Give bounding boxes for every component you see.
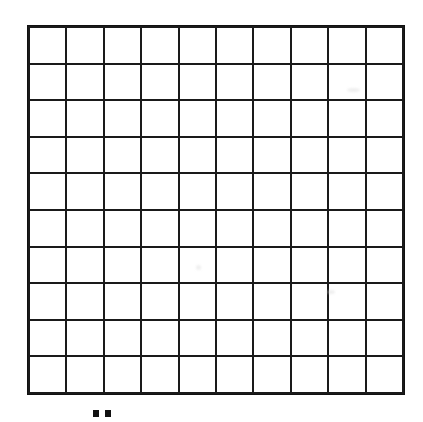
grid-cell[interactable] [253, 100, 290, 137]
grid-cell[interactable] [29, 320, 66, 357]
grid-cell[interactable] [253, 27, 290, 64]
grid-cell[interactable] [328, 27, 365, 64]
grid-cell[interactable] [66, 320, 103, 357]
grid-cell[interactable] [29, 64, 66, 101]
grid-cell[interactable] [366, 64, 403, 101]
grid-cell[interactable] [141, 100, 178, 137]
grid-cell[interactable] [216, 27, 253, 64]
grid-cell[interactable] [366, 100, 403, 137]
grid-cell[interactable] [104, 173, 141, 210]
grid-cell[interactable] [216, 64, 253, 101]
grid-cell[interactable] [366, 247, 403, 284]
grid-cell[interactable] [29, 210, 66, 247]
grid-cell[interactable] [29, 27, 66, 64]
grid-cell[interactable] [29, 137, 66, 174]
grid-cell[interactable] [291, 64, 328, 101]
grid-cell[interactable] [141, 320, 178, 357]
grid-cell[interactable] [253, 356, 290, 393]
grid-cell[interactable] [216, 210, 253, 247]
grid-cell[interactable] [104, 283, 141, 320]
grid-cell[interactable] [216, 137, 253, 174]
grid-cell[interactable] [216, 283, 253, 320]
grid-cell[interactable] [291, 356, 328, 393]
grid-cell[interactable] [328, 210, 365, 247]
grid-cell[interactable] [328, 100, 365, 137]
grid-cell[interactable] [291, 283, 328, 320]
grid-cell[interactable] [179, 27, 216, 64]
grid-cell[interactable] [291, 100, 328, 137]
grid-cell[interactable] [291, 247, 328, 284]
grid-cell[interactable] [179, 210, 216, 247]
grid-cell[interactable] [291, 27, 328, 64]
grid-cell[interactable] [104, 210, 141, 247]
grid-cell[interactable] [328, 137, 365, 174]
grid-cell[interactable] [366, 320, 403, 357]
grid-cell[interactable] [104, 27, 141, 64]
grid-cell[interactable] [141, 283, 178, 320]
grid-cell[interactable] [179, 173, 216, 210]
grid-cell[interactable] [179, 137, 216, 174]
grid-cell[interactable] [66, 100, 103, 137]
grid-cell[interactable] [366, 137, 403, 174]
grid-cell[interactable] [291, 137, 328, 174]
grid-cell[interactable] [141, 247, 178, 284]
grid-cell[interactable] [66, 283, 103, 320]
grid-cell[interactable] [253, 173, 290, 210]
grid-cell[interactable] [366, 210, 403, 247]
grid-cell[interactable] [253, 283, 290, 320]
grid-cell[interactable] [253, 137, 290, 174]
grid-cell[interactable] [291, 173, 328, 210]
grid-cell[interactable] [328, 356, 365, 393]
grid-cell[interactable] [366, 356, 403, 393]
grid-cell[interactable] [66, 64, 103, 101]
grid-cell[interactable] [29, 356, 66, 393]
grid-cell[interactable] [66, 137, 103, 174]
grid-cell[interactable] [179, 64, 216, 101]
grid-cell[interactable] [179, 100, 216, 137]
grid-cell[interactable] [66, 210, 103, 247]
grid-cell[interactable] [253, 320, 290, 357]
grid-cell[interactable] [141, 137, 178, 174]
grid-row [29, 320, 403, 357]
grid-cell[interactable] [366, 173, 403, 210]
grid-cell[interactable] [216, 173, 253, 210]
grid-cell[interactable] [216, 356, 253, 393]
grid-cell[interactable] [179, 283, 216, 320]
grid-cell[interactable] [104, 100, 141, 137]
grid-cell[interactable] [104, 137, 141, 174]
grid-cell[interactable] [29, 247, 66, 284]
grid-cell[interactable] [216, 320, 253, 357]
grid-cell[interactable] [366, 283, 403, 320]
grid-cell[interactable] [29, 100, 66, 137]
grid-cell[interactable] [141, 27, 178, 64]
grid-cell[interactable] [291, 210, 328, 247]
grid-cell[interactable] [179, 320, 216, 357]
grid-cell[interactable] [291, 320, 328, 357]
grid-cell[interactable] [328, 247, 365, 284]
grid-cell[interactable] [179, 356, 216, 393]
grid-cell[interactable] [328, 173, 365, 210]
grid-cell[interactable] [104, 64, 141, 101]
grid-cell[interactable] [141, 356, 178, 393]
grid-cell[interactable] [216, 247, 253, 284]
grid-cell[interactable] [104, 247, 141, 284]
grid-cell[interactable] [141, 210, 178, 247]
grid-cell[interactable] [253, 247, 290, 284]
grid-cell[interactable] [29, 283, 66, 320]
grid-cell[interactable] [104, 320, 141, 357]
grid-cell[interactable] [366, 27, 403, 64]
grid-cell[interactable] [328, 320, 365, 357]
grid-cell[interactable] [66, 356, 103, 393]
grid-cell[interactable] [141, 173, 178, 210]
grid-cell[interactable] [66, 247, 103, 284]
grid-cell[interactable] [328, 64, 365, 101]
grid-cell[interactable] [66, 173, 103, 210]
grid-cell[interactable] [253, 210, 290, 247]
grid-cell[interactable] [328, 283, 365, 320]
grid-cell[interactable] [141, 64, 178, 101]
grid-cell[interactable] [104, 356, 141, 393]
grid-cell[interactable] [216, 100, 253, 137]
grid-cell[interactable] [29, 173, 66, 210]
grid-cell[interactable] [253, 64, 290, 101]
grid-cell[interactable] [66, 27, 103, 64]
